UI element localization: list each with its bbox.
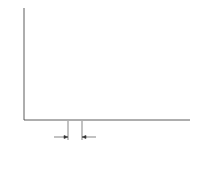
delta-x-marker (54, 121, 96, 140)
riemann-sum-diagram (0, 0, 205, 185)
